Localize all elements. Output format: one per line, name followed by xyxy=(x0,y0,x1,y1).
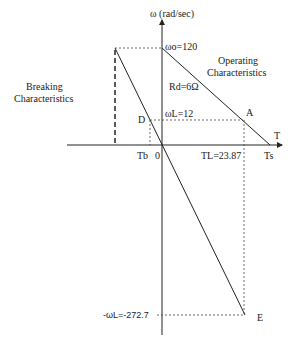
omega0-label: ωo=120 xyxy=(165,41,197,52)
rd-label: Rd=6Ω xyxy=(169,81,199,92)
tb-label: Tb xyxy=(137,150,148,161)
ts-label: Ts xyxy=(264,150,273,161)
omegaL-label: ωL=12 xyxy=(165,108,193,119)
point-e-label: E xyxy=(257,312,263,323)
breaking-label-2: Characteristics xyxy=(14,93,73,104)
breaking-label-1: Breaking xyxy=(26,81,63,92)
speed-torque-diagram xyxy=(0,0,298,347)
operating-label-1: Operating xyxy=(218,55,258,66)
neg-omegaL-label: -ωL=-272.7 xyxy=(103,310,149,321)
operating-label-2: Characteristics xyxy=(207,67,266,78)
x-axis-label: T xyxy=(274,130,280,141)
tl-label: TL=23.87 xyxy=(201,150,241,161)
point-a-label: A xyxy=(246,107,253,118)
origin-label: 0 xyxy=(155,150,160,161)
point-d-label: D xyxy=(138,114,145,125)
y-axis-label: ω (rad/sec) xyxy=(150,8,194,19)
